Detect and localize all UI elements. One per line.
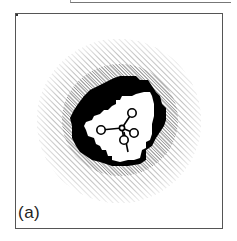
atom-bottom xyxy=(120,136,128,144)
atom-center xyxy=(119,125,124,130)
atom-top xyxy=(128,109,136,117)
atom-right xyxy=(130,129,138,137)
panel-label: (a) xyxy=(18,203,40,223)
atom-left xyxy=(97,126,105,134)
